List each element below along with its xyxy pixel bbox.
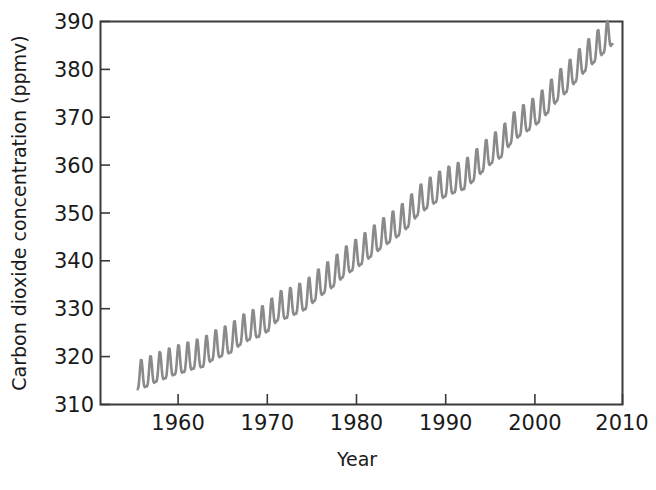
co2-concentration-chart: 390 380 370 360 350 340 330 320 310 1960… [0,0,656,490]
x-tick-label-2010: 2010 [595,411,648,435]
y-axis-title: Carbon dioxide concentration (ppmv) [8,35,30,391]
x-axis-title: Year [336,448,377,470]
x-tick-label-2000: 2000 [508,411,561,435]
y-tick-label-370: 370 [54,106,94,130]
x-axis-tick-labels: 1960 1970 1980 1990 2000 2010 [151,411,648,435]
co2-keeling-curve [138,21,613,389]
x-tick-label-1960: 1960 [151,411,204,435]
y-tick-label-320: 320 [54,345,94,369]
x-tick-label-1990: 1990 [419,411,472,435]
y-tick-label-390: 390 [54,10,94,34]
y-axis-tick-labels: 390 380 370 360 350 340 330 320 310 [54,10,94,417]
figure-container: 390 380 370 360 350 340 330 320 310 1960… [0,0,656,490]
data-series-group [138,21,613,389]
y-tick-label-330: 330 [54,297,94,321]
y-tick-label-360: 360 [54,154,94,178]
x-tick-label-1980: 1980 [330,411,383,435]
y-axis-ticks [101,22,111,405]
y-tick-label-350: 350 [54,202,94,226]
y-tick-label-310: 310 [54,393,94,417]
y-tick-label-380: 380 [54,58,94,82]
y-tick-label-340: 340 [54,249,94,273]
x-tick-label-1970: 1970 [241,411,294,435]
x-axis-ticks [178,394,622,405]
